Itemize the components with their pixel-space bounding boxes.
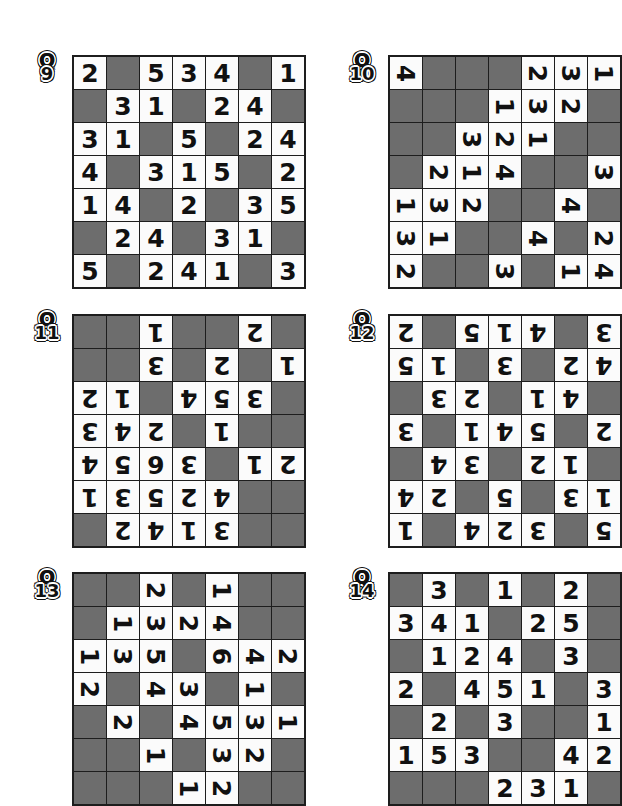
grid-cell-blank[interactable] [107,57,139,89]
grid-cell-filled[interactable]: 3 [107,90,139,122]
grid-cell-blank[interactable] [107,673,139,705]
grid-cell-blank[interactable] [489,382,521,414]
grid-cell-blank[interactable] [74,349,106,381]
grid-cell-filled[interactable]: 5 [588,514,620,546]
grid-cell-filled[interactable]: 2 [555,574,587,606]
grid-cell-filled[interactable]: 2 [390,316,422,348]
grid-cell-filled[interactable]: 2 [489,123,521,155]
grid-cell-filled[interactable]: 4 [206,481,238,513]
grid-cell-filled[interactable]: 3 [423,574,455,606]
grid-cell-blank[interactable] [272,316,304,348]
grid-cell-filled[interactable]: 4 [489,156,521,188]
grid-cell-blank[interactable] [107,574,139,606]
grid-cell-filled[interactable]: 1 [522,673,554,705]
grid-cell-filled[interactable]: 3 [107,481,139,513]
grid-cell-filled[interactable]: 4 [588,255,620,287]
grid-cell-blank[interactable] [74,772,106,804]
grid-cell-filled[interactable]: 5 [489,481,521,513]
grid-cell-filled[interactable]: 1 [74,481,106,513]
grid-cell-blank[interactable] [522,706,554,738]
grid-cell-filled[interactable]: 3 [555,640,587,672]
grid-cell-filled[interactable]: 3 [489,255,521,287]
grid-cell-blank[interactable] [206,189,238,221]
grid-cell-filled[interactable]: 3 [555,481,587,513]
grid-cell-filled[interactable]: 3 [456,448,488,480]
grid-cell-filled[interactable]: 3 [390,222,422,254]
grid-cell-filled[interactable]: 1 [489,316,521,348]
grid-cell-filled[interactable]: 2 [522,448,554,480]
grid-cell-filled[interactable]: 3 [588,316,620,348]
grid-cell-filled[interactable]: 3 [239,706,271,738]
grid-cell-filled[interactable]: 2 [206,349,238,381]
grid-cell-blank[interactable] [173,349,205,381]
grid-cell-filled[interactable]: 4 [173,706,205,738]
grid-cell-filled[interactable]: 3 [140,607,172,639]
grid-cell-blank[interactable] [588,607,620,639]
grid-cell-filled[interactable]: 1 [239,448,271,480]
grid-cell-filled[interactable]: 2 [206,90,238,122]
grid-cell-filled[interactable]: 3 [489,706,521,738]
grid-cell-filled[interactable]: 2 [239,316,271,348]
grid-cell-filled[interactable]: 4 [390,57,422,89]
grid-cell-filled[interactable]: 2 [555,349,587,381]
grid-cell-filled[interactable]: 3 [272,255,304,287]
grid-cell-filled[interactable]: 3 [456,739,488,771]
grid-cell-filled[interactable]: 3 [140,156,172,188]
grid-cell-filled[interactable]: 3 [140,349,172,381]
grid-cell-blank[interactable] [206,123,238,155]
grid-cell-filled[interactable]: 1 [588,57,620,89]
grid-cell-filled[interactable]: 1 [206,574,238,606]
grid-cell-filled[interactable]: 3 [173,57,205,89]
grid-cell-filled[interactable]: 4 [522,316,554,348]
grid-cell-filled[interactable]: 5 [423,739,455,771]
grid-cell-filled[interactable]: 5 [206,156,238,188]
grid-cell-blank[interactable] [423,772,455,804]
grid-cell-blank[interactable] [74,514,106,546]
grid-cell-filled[interactable]: 6 [140,448,172,480]
grid-cell-filled[interactable]: 4 [423,448,455,480]
grid-cell-filled[interactable]: 3 [173,448,205,480]
grid-cell-filled[interactable]: 1 [456,607,488,639]
grid-cell-blank[interactable] [522,739,554,771]
grid-cell-filled[interactable]: 1 [206,415,238,447]
grid-cell-filled[interactable]: 1 [522,382,554,414]
grid-cell-filled[interactable]: 1 [456,156,488,188]
grid-cell-filled[interactable]: 3 [239,382,271,414]
grid-cell-filled[interactable]: 1 [173,514,205,546]
grid-cell-blank[interactable] [522,156,554,188]
grid-cell-blank[interactable] [272,739,304,771]
grid-cell-blank[interactable] [140,772,172,804]
grid-cell-filled[interactable]: 2 [423,706,455,738]
grid-cell-blank[interactable] [272,514,304,546]
grid-cell-filled[interactable]: 2 [522,607,554,639]
grid-cell-filled[interactable]: 2 [173,481,205,513]
grid-cell-blank[interactable] [140,189,172,221]
grid-cell-filled[interactable]: 5 [489,673,521,705]
grid-cell-filled[interactable]: 2 [588,739,620,771]
grid-cell-filled[interactable]: 5 [173,123,205,155]
grid-cell-blank[interactable] [239,156,271,188]
grid-cell-filled[interactable]: 1 [456,415,488,447]
grid-cell-filled[interactable]: 4 [107,189,139,221]
grid-cell-blank[interactable] [456,57,488,89]
grid-cell-filled[interactable]: 5 [140,57,172,89]
grid-cell-blank[interactable] [489,57,521,89]
grid-cell-filled[interactable]: 3 [522,514,554,546]
grid-cell-filled[interactable]: 5 [107,448,139,480]
grid-cell-filled[interactable]: 3 [423,189,455,221]
grid-cell-blank[interactable] [522,481,554,513]
grid-cell-filled[interactable]: 2 [74,673,106,705]
grid-cell-blank[interactable] [489,189,521,221]
grid-cell-blank[interactable] [140,706,172,738]
grid-cell-filled[interactable]: 1 [489,90,521,122]
grid-cell-blank[interactable] [588,448,620,480]
grid-cell-filled[interactable]: 5 [206,382,238,414]
grid-cell-filled[interactable]: 2 [456,189,488,221]
grid-cell-blank[interactable] [173,574,205,606]
grid-cell-blank[interactable] [173,739,205,771]
grid-cell-filled[interactable]: 4 [140,222,172,254]
grid-cell-filled[interactable]: 1 [423,640,455,672]
grid-cell-filled[interactable]: 2 [272,156,304,188]
grid-cell-blank[interactable] [489,607,521,639]
grid-cell-blank[interactable] [456,222,488,254]
